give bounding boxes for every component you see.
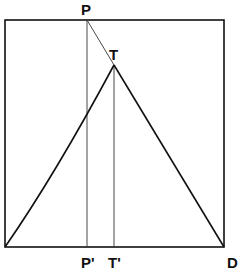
diagram-canvas: P T P' T' D — [0, 0, 240, 280]
label-t-prime: T' — [108, 254, 121, 271]
label-d: D — [227, 254, 238, 271]
label-p-prime: P' — [81, 254, 95, 271]
label-p: P — [81, 1, 91, 18]
triangle-left-side — [5, 65, 114, 247]
label-t: T — [109, 46, 118, 63]
triangle-right-side — [114, 65, 224, 247]
